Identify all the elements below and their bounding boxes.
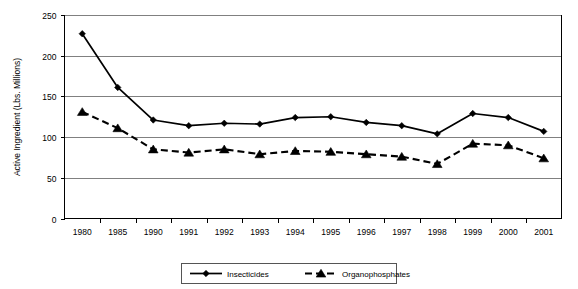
data-point-marker [363, 119, 369, 125]
y-tick-label: 250 [42, 11, 56, 21]
x-tick-labels-group: 1980198519901991199219931994199519961997… [73, 227, 554, 237]
data-series-group [77, 31, 548, 168]
y-tick-label: 200 [42, 52, 56, 62]
x-tick-label: 1999 [463, 227, 482, 237]
chart-legend: InsecticidesOrganophosphates [182, 264, 411, 284]
legend-item-label: Insecticides [227, 270, 269, 279]
legend-marker-sample [203, 270, 209, 276]
data-point-marker [503, 141, 513, 149]
data-point-marker [257, 121, 263, 127]
data-point-marker [221, 120, 227, 126]
x-tick-label: 1995 [321, 227, 340, 237]
data-point-marker [432, 160, 442, 168]
x-tick-label: 1980 [73, 227, 92, 237]
x-tick-label: 1996 [357, 227, 376, 237]
x-tick-label: 1993 [250, 227, 269, 237]
data-point-marker [541, 128, 547, 134]
legend-entries-group: InsecticidesOrganophosphates [190, 269, 410, 279]
x-tick-label: 1997 [392, 227, 411, 237]
legend-item-label: Organophosphates [342, 270, 410, 279]
data-point-marker [77, 108, 87, 116]
line-chart: 050100150200250 198019851990199119921993… [0, 0, 578, 289]
x-tick-label: 1994 [286, 227, 305, 237]
x-tick-label: 1985 [108, 227, 127, 237]
y-tick-labels-group: 050100150200250 [42, 11, 56, 225]
y-tick-label: 100 [42, 133, 56, 143]
data-point-marker [113, 124, 123, 132]
data-point-marker [328, 114, 334, 120]
x-tick-label: 1998 [428, 227, 447, 237]
chart-container: 050100150200250 198019851990199119921993… [0, 0, 578, 289]
x-tick-marks-group [101, 219, 527, 223]
x-tick-label: 2001 [534, 227, 553, 237]
gridlines-group [65, 16, 562, 179]
data-point-marker [399, 123, 405, 129]
data-point-marker [292, 114, 298, 120]
x-tick-label: 1991 [179, 227, 198, 237]
x-tick-label: 2000 [499, 227, 518, 237]
y-tick-marks-group [61, 16, 65, 220]
x-tick-label: 1992 [215, 227, 234, 237]
y-tick-label: 0 [52, 215, 57, 225]
data-point-marker [186, 123, 192, 129]
data-point-marker [505, 114, 511, 120]
x-tick-label: 1990 [144, 227, 163, 237]
y-tick-label: 150 [42, 92, 56, 102]
y-axis-title: Active Ingredient (Lbs. Millions) [12, 58, 22, 176]
y-tick-label: 50 [47, 174, 57, 184]
